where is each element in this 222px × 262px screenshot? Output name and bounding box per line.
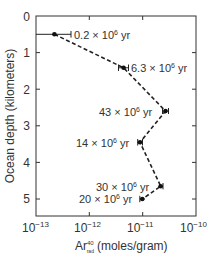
data-point bbox=[163, 109, 168, 114]
annotation-age: 20 × 106yr bbox=[79, 193, 132, 205]
x-axis-title: Ar40rad(moles/gram) bbox=[75, 239, 168, 254]
y-tick-0: 0 bbox=[23, 10, 30, 24]
y-tick-labels: 0 1 2 3 4 5 bbox=[23, 10, 30, 207]
data-point bbox=[138, 140, 143, 145]
annotation-age: 0.2 × 106yr bbox=[74, 29, 130, 41]
y-tick-3: 3 bbox=[23, 119, 30, 133]
data-point bbox=[52, 32, 57, 37]
annotation-age: 43 × 106yr bbox=[99, 106, 152, 118]
data-point bbox=[121, 66, 126, 71]
y-tick-5: 5 bbox=[23, 192, 30, 206]
annotation-age: 14 × 106yr bbox=[76, 137, 129, 149]
y-tick-1: 1 bbox=[23, 46, 30, 60]
argon-depth-chart: 0 1 2 3 4 5 10−13 10−12 10−11 10−10 Ar40… bbox=[0, 0, 222, 262]
data-point bbox=[140, 197, 145, 202]
annotation-age: 6.3 × 106yr bbox=[131, 62, 187, 74]
x-tick-labels: 10−13 10−12 10−11 10−10 bbox=[22, 220, 207, 235]
annotation-age: 30 × 106yr bbox=[96, 181, 149, 193]
x-tick-1e-11: 10−11 bbox=[127, 220, 154, 235]
age-annotations: 0.2 × 106yr 6.3 × 106yr 43 × 106yr 14 × … bbox=[74, 29, 187, 206]
y-ticks bbox=[36, 53, 196, 199]
x-tick-1e-13: 10−13 bbox=[22, 220, 49, 235]
y-tick-4: 4 bbox=[23, 156, 30, 170]
data-point bbox=[158, 184, 163, 189]
x-tick-1e-10: 10−10 bbox=[180, 220, 207, 235]
x-tick-1e-12: 10−12 bbox=[74, 220, 101, 235]
y-axis-title: Ocean depth (kilometers) bbox=[3, 49, 17, 184]
y-tick-2: 2 bbox=[23, 83, 30, 97]
